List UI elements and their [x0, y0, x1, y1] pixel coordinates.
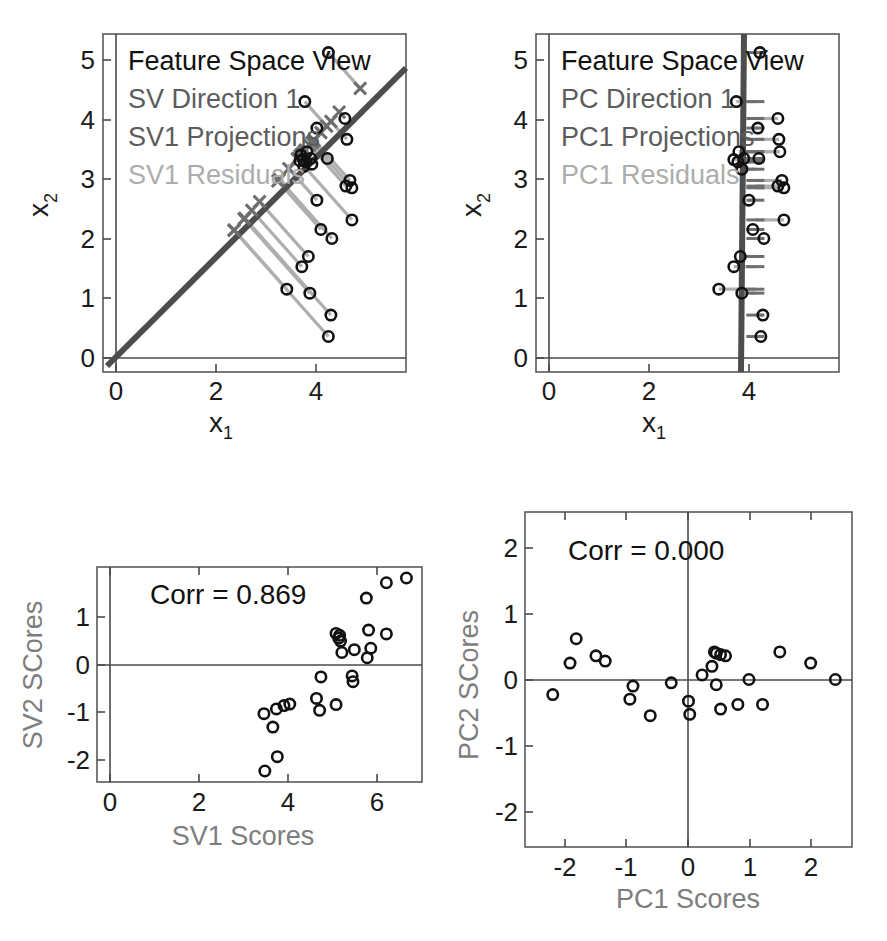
y-ticks: 0 1 2 3 4 5 — [514, 45, 544, 373]
data-point-marker — [600, 656, 610, 666]
panel-bottom-right: -2 -1 0 1 2 -2 -1 0 1 2 — [440, 470, 887, 910]
xtick-2: 2 — [192, 787, 206, 817]
ytick-5: 5 — [514, 45, 528, 75]
data-point-marker — [331, 699, 341, 709]
data-point-marker — [697, 670, 707, 680]
data-point-marker — [715, 704, 725, 714]
data-point-marker — [363, 625, 373, 635]
xtick-2: 2 — [209, 376, 223, 406]
data-point-marker — [571, 634, 581, 644]
data-point-marker — [362, 653, 372, 663]
xlabel-text: x — [642, 407, 656, 438]
y-ticks: -2 -1 0 1 — [67, 602, 105, 775]
data-point-marker — [259, 708, 269, 718]
data-point-marker — [548, 689, 558, 699]
ylabel-sub: 2 — [474, 193, 494, 203]
ytick-neg1: -1 — [67, 697, 90, 727]
panel-bottom-left: -2 -1 0 1 0 2 4 6 SV2 SCores SV1 Scor — [0, 470, 440, 910]
top-right-svg: 0 1 2 3 4 5 0 2 4 x 2 x 1 — [440, 0, 887, 440]
xtick-4: 4 — [309, 376, 323, 406]
top-left-svg: 0 1 2 3 4 5 0 2 4 x 2 x — [0, 0, 440, 440]
legend-item-0: Feature Space View — [128, 46, 371, 76]
xtick-4: 4 — [281, 787, 295, 817]
ytick-1: 1 — [81, 283, 95, 313]
data-point-marker — [711, 680, 721, 690]
correlation-annotation: Corr = 0.869 — [150, 579, 306, 610]
xtick-0: 0 — [681, 852, 695, 882]
data-point-marker — [775, 647, 785, 657]
x-axis-label: PC1 Scores — [616, 884, 760, 914]
xlabel-sub: 1 — [223, 423, 233, 443]
data-point-marker — [260, 766, 270, 776]
data-points — [548, 634, 841, 721]
data-point-marker — [349, 644, 359, 654]
ytick-3: 3 — [81, 164, 95, 194]
y-axis-label: x 2 — [456, 193, 494, 217]
x-ticks: 0 2 4 — [542, 364, 756, 406]
legend-item-3: SV1 Residuals — [128, 160, 305, 190]
correlation-annotation: Corr = 0.000 — [568, 535, 724, 566]
ytick-2: 2 — [81, 224, 95, 254]
residual-line — [234, 230, 328, 336]
data-point-marker — [314, 705, 324, 715]
ytick-0: 0 — [76, 650, 90, 680]
data-point-marker — [401, 573, 411, 583]
data-point-marker — [337, 647, 347, 657]
ytick-1: 1 — [76, 602, 90, 632]
ytick-4: 4 — [514, 105, 528, 135]
data-point-marker — [685, 709, 695, 719]
ytick-0: 0 — [81, 343, 95, 373]
xtick-2: 2 — [804, 852, 818, 882]
ytick-5: 5 — [81, 45, 95, 75]
legend-item-1: SV Direction 1 — [128, 84, 301, 114]
data-point-marker — [707, 661, 717, 671]
xtick-neg2: -2 — [553, 852, 576, 882]
legend-item-3: PC1 Residuals — [561, 160, 740, 190]
xlabel-sub: 1 — [656, 423, 666, 443]
ytick-4: 4 — [81, 105, 95, 135]
bottom-right-svg: -2 -1 0 1 2 -2 -1 0 1 2 — [440, 470, 887, 910]
x-ticks: 0 2 4 — [109, 364, 323, 406]
xtick-neg1: -1 — [614, 852, 637, 882]
ytick-3: 3 — [514, 164, 528, 194]
data-point-marker — [381, 629, 391, 639]
xtick-2: 2 — [642, 376, 656, 406]
ylabel-text: x — [23, 203, 54, 217]
ytick-0: 0 — [504, 665, 518, 695]
xlabel-text: x — [209, 407, 223, 438]
x-axis-label: SV1 Scores — [172, 821, 315, 851]
xtick-0: 0 — [109, 376, 123, 406]
data-point-marker — [805, 658, 815, 668]
xtick-4: 4 — [742, 376, 756, 406]
data-point-marker — [268, 722, 278, 732]
ytick-neg1: -1 — [495, 731, 518, 761]
data-point-marker — [272, 751, 282, 761]
bottom-left-svg: -2 -1 0 1 0 2 4 6 SV2 SCores SV1 Scor — [0, 470, 440, 910]
legend-item-2: PC1 Projections — [561, 122, 755, 152]
y-ticks: -2 -1 0 1 2 — [495, 533, 533, 827]
xtick-1: 1 — [743, 852, 757, 882]
xtick-0: 0 — [542, 376, 556, 406]
y-ticks: 0 1 2 3 4 5 — [81, 45, 111, 373]
data-point-marker — [361, 593, 371, 603]
xtick-0: 0 — [103, 787, 117, 817]
figure-root: 0 1 2 3 4 5 0 2 4 x 2 x — [0, 0, 887, 941]
ylabel-sub: 2 — [41, 193, 61, 203]
ytick-2: 2 — [514, 224, 528, 254]
ytick-neg2: -2 — [67, 745, 90, 775]
xtick-6: 6 — [370, 787, 384, 817]
y-axis-label: x 2 — [23, 193, 61, 217]
legend-item-2: SV1 Projections — [128, 122, 320, 152]
data-point-marker — [625, 694, 635, 704]
data-point-marker — [666, 678, 676, 688]
data-point-marker — [645, 710, 655, 720]
ytick-2: 2 — [504, 533, 518, 563]
ytick-1: 1 — [514, 283, 528, 313]
data-point-marker — [733, 699, 743, 709]
panel-top-right: 0 1 2 3 4 5 0 2 4 x 2 x 1 — [440, 0, 887, 440]
ytick-0: 0 — [514, 343, 528, 373]
ylabel-text: x — [456, 203, 487, 217]
ytick-1: 1 — [504, 599, 518, 629]
x-axis-label: x 1 — [642, 407, 666, 443]
ytick-neg2: -2 — [495, 797, 518, 827]
